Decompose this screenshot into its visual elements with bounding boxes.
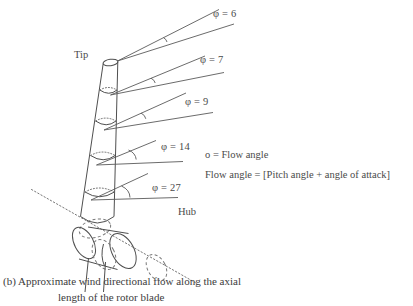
section-ring-back-2 xyxy=(96,118,116,121)
figure-root: Tip Hub φ = 6 φ = 7 φ = 9 φ = 14 φ = 27 … xyxy=(0,0,413,306)
flow-angle-label-27: φ = 27 xyxy=(152,183,181,194)
hub-body-top xyxy=(88,227,129,234)
legend-flow-angle-formula: Flow angle = [Pitch angle + angle of att… xyxy=(205,170,390,181)
flow-ray-upper-27 xyxy=(91,174,148,201)
section-ring-back-1 xyxy=(100,88,117,91)
flow-angle-arc-7 xyxy=(151,78,155,83)
hub-body-bottom xyxy=(79,259,118,270)
flow-angle-arc-6 xyxy=(164,38,168,42)
section-ring-front-2 xyxy=(96,121,116,125)
section-ring-back-3 xyxy=(91,152,116,155)
flow-ray-upper-7 xyxy=(111,56,206,95)
flow-angle-label-6: φ = 6 xyxy=(213,9,236,20)
flow-angle-label-7: φ = 7 xyxy=(200,55,223,66)
blade-section-rings xyxy=(85,88,117,197)
blade-leading-edge xyxy=(81,64,104,217)
flow-angle-arc-27 xyxy=(122,186,131,198)
legend-flow-angle-definition: o = Flow angle xyxy=(205,150,268,161)
caption-line-1: (b) Approximate wind directional flow al… xyxy=(3,276,241,287)
caption-line-2: length of the rotor blade xyxy=(58,292,164,303)
flow-ray-lower-7 xyxy=(111,73,225,96)
section-ring-front-1 xyxy=(100,90,117,93)
flow-ray-lower-27 xyxy=(91,198,178,201)
blade-tip-ellipse xyxy=(103,58,119,66)
blade-body xyxy=(81,58,119,223)
hub-label: Hub xyxy=(178,207,196,218)
hub-cap-left xyxy=(68,224,101,263)
tip-label: Tip xyxy=(74,50,88,61)
flow-ray-lower-14 xyxy=(97,162,184,166)
flow-angle-label-9: φ = 9 xyxy=(185,97,208,108)
flow-angle-arc-9 xyxy=(141,113,146,119)
blade-trailing-edge xyxy=(114,62,118,217)
flow-angle-label-14: φ = 14 xyxy=(161,142,190,153)
hub-shaft-curve xyxy=(102,244,105,266)
hub-cap-right xyxy=(104,229,141,273)
flow-ray-upper-14 xyxy=(97,141,157,166)
hub-inner-ellipse xyxy=(87,235,121,273)
flow-ray-lower-9 xyxy=(104,113,213,131)
